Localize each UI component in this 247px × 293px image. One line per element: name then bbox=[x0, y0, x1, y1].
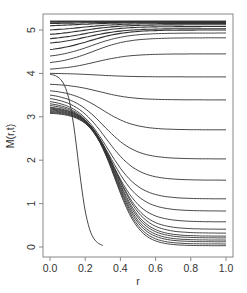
x-tick-label: 0.0 bbox=[43, 262, 58, 274]
curve-family bbox=[50, 21, 226, 245]
curve bbox=[50, 84, 226, 100]
y-tick-label: 2 bbox=[25, 157, 37, 163]
curve bbox=[50, 54, 226, 69]
x-tick-label: 0.4 bbox=[113, 262, 128, 274]
curve bbox=[50, 106, 226, 222]
curve bbox=[50, 110, 226, 238]
y-tick-label: 1 bbox=[25, 201, 37, 207]
y-tick-label: 4 bbox=[25, 70, 37, 76]
y-tick-label: 3 bbox=[25, 114, 37, 120]
x-tick-label: 0.8 bbox=[183, 262, 198, 274]
curve bbox=[50, 38, 226, 63]
line-chart: 012345 0.00.20.40.60.81.0 r M(r,t) bbox=[0, 0, 247, 293]
curve bbox=[50, 112, 226, 242]
y-tick-label: 0 bbox=[25, 244, 37, 250]
y-tick-label: 5 bbox=[25, 27, 37, 33]
y-axis-label: M(r,t) bbox=[4, 124, 16, 149]
x-axis: 0.00.20.40.60.81.0 bbox=[43, 257, 234, 274]
x-tick-label: 0.2 bbox=[78, 262, 93, 274]
curve bbox=[50, 73, 226, 77]
x-axis-label: r bbox=[136, 275, 140, 287]
curve bbox=[50, 113, 226, 245]
x-tick-label: 0.6 bbox=[148, 262, 163, 274]
y-axis: 012345 bbox=[25, 27, 43, 250]
curve bbox=[50, 104, 226, 211]
x-tick-label: 1.0 bbox=[219, 262, 234, 274]
